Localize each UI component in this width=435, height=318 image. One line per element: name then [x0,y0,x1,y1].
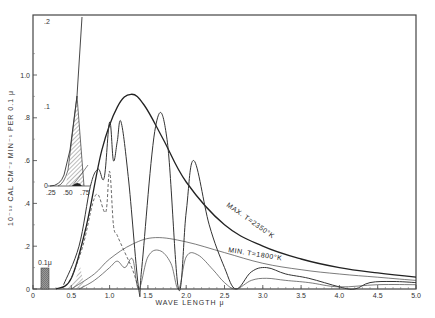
inset-x-2: .50 [63,189,73,196]
y-tick-label: .2 [24,243,30,250]
y-tick-label: .4 [24,200,30,207]
x-tick-label: 0 [31,292,35,299]
reference-bar [41,268,49,289]
x-tick-label: 1.0 [105,292,115,299]
x-tick-label: 1.5 [143,292,153,299]
x-tick-label: 0.5 [66,292,76,299]
inset-x-1: .25 [46,189,56,196]
inset-y-zero: 0 [44,182,48,189]
y-axis-label: 10⁻¹² CAL CM⁻² MIN⁻¹ PER 0.1 μ [7,90,15,226]
x-tick-label: 3.0 [258,292,268,299]
plot-frame [33,15,416,289]
inset-y-top: .2 [44,18,50,25]
inset: .2 .1 0 .25 .50 .75 [44,17,90,196]
reference-bar-label: 0.1μ [38,259,52,267]
x-tick-label: 4.0 [335,292,345,299]
max-curve-label: MAX. T=2350°K [225,201,276,239]
series-group [56,94,416,297]
x-tick-label: 4.5 [373,292,383,299]
y-tick-label: .8 [24,114,30,121]
x-axis-label: WAVE LENGTH μ [155,299,224,307]
spectrum-chart: 0.2.4.6.81.0 00.51.01.52.02.53.03.54.04.… [0,0,435,318]
min-curve-label: MIN. T=1800°K [228,246,283,261]
x-tick-label: 2.5 [220,292,230,299]
y-tick-label: .6 [24,157,30,164]
series-line-2 [64,112,416,296]
x-tick-label: 2.0 [181,292,191,299]
y-axis-ticks: 0.2.4.6.81.0 [20,54,37,293]
x-tick-label: 5.0 [411,292,421,299]
y-tick-label: 1.0 [20,72,30,79]
inset-y-mid: .1 [44,103,50,110]
x-axis-ticks: 00.51.01.52.02.53.03.54.04.55.0 [31,285,421,299]
y-tick-label: 0 [26,286,30,293]
x-tick-label: 3.5 [296,292,306,299]
